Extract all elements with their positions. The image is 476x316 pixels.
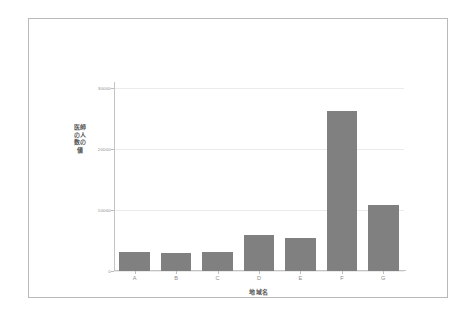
x-axis-tick-mark: [300, 271, 301, 274]
x-axis-tick-mark: [383, 271, 384, 274]
bar-D: [244, 235, 275, 271]
x-axis-tick-mark: [218, 271, 219, 274]
bar-series: [114, 82, 404, 271]
x-axis-tick-label: G: [381, 275, 385, 281]
x-axis-tick-mark: [176, 271, 177, 274]
x-axis-tick-label: D: [257, 275, 261, 281]
figure-frame: 0100002000030000 ABCDEFG 地域名 医師の人数の値: [28, 18, 448, 298]
y-axis-title: 医師の人数の値: [73, 124, 87, 154]
x-axis-tick-label: E: [299, 275, 303, 281]
x-axis-tick-mark: [259, 271, 260, 274]
bar-C: [202, 252, 233, 271]
chart-figure: 0100002000030000 ABCDEFG 地域名 医師の人数の値: [0, 0, 476, 316]
y-axis-tick-label: 20000: [98, 147, 111, 152]
y-axis-tick-mark: [111, 271, 114, 272]
y-axis-tick-label: 10000: [98, 208, 111, 213]
x-axis-tick-mark: [135, 271, 136, 274]
bar-E: [285, 238, 316, 271]
x-axis-tick-label: F: [340, 275, 343, 281]
y-axis-tick-labels: 0100002000030000: [81, 82, 111, 271]
bar-A: [119, 252, 150, 272]
x-axis-title: 地域名: [114, 287, 404, 296]
bar-G: [368, 205, 399, 271]
bar-B: [161, 253, 192, 271]
bar-F: [327, 111, 358, 271]
x-axis-tick-label: A: [133, 275, 137, 281]
x-axis-tick-label: C: [216, 275, 220, 281]
x-axis-tick-label: B: [174, 275, 178, 281]
x-axis-tick-mark: [342, 271, 343, 274]
y-axis-tick-label: 30000: [98, 86, 111, 91]
